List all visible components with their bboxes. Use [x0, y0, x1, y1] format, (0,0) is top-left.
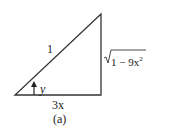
adjacent-label: 3x	[52, 99, 64, 111]
opposite-label: 1 − 9x2	[111, 53, 143, 68]
adjacent-label-text: 3x	[52, 98, 64, 112]
angle-label: y	[40, 83, 45, 95]
caption: (a)	[53, 113, 66, 125]
arrowhead-icon	[31, 81, 37, 87]
exponent: 2	[139, 55, 143, 63]
hypotenuse-label: 1	[47, 43, 53, 55]
radicand: 1 − 9x	[111, 56, 139, 68]
triangle-outline	[15, 14, 101, 95]
right-triangle	[0, 0, 183, 139]
